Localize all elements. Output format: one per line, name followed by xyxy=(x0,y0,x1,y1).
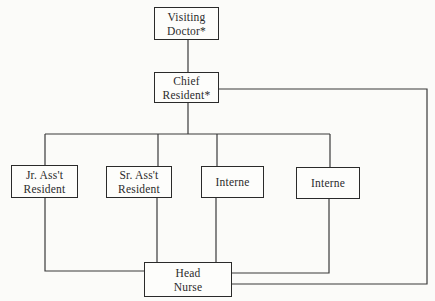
node-label-line1: Interne xyxy=(216,175,250,189)
node-label-line1: Head xyxy=(175,266,200,280)
node-chief-resident: Chief Resident* xyxy=(154,72,219,103)
node-label-line2: Doctor* xyxy=(167,24,206,38)
node-interne-2: Interne xyxy=(296,167,360,199)
node-label-line2: Resident xyxy=(118,182,160,196)
connector-lines xyxy=(0,0,435,301)
node-label-line1: Visiting xyxy=(168,10,206,24)
edge-jr-to-headnurse xyxy=(45,198,144,271)
node-label-line1: Jr. Ass't xyxy=(26,168,63,182)
node-label-line1: Sr. Ass't xyxy=(119,168,158,182)
node-label-line2: Nurse xyxy=(174,280,202,294)
node-label-line2: Resident* xyxy=(163,88,211,102)
node-sr-asst-resident: Sr. Ass't Resident xyxy=(106,166,172,198)
node-head-nurse: Head Nurse xyxy=(144,262,232,297)
edge-interne2-to-headnurse xyxy=(232,199,329,273)
node-label-line2: Resident xyxy=(24,182,66,196)
node-label-line1: Interne xyxy=(311,176,345,190)
node-interne-1: Interne xyxy=(201,166,264,198)
node-jr-asst-resident: Jr. Ass't Resident xyxy=(11,165,78,198)
node-label-line1: Chief xyxy=(173,74,200,88)
node-visiting-doctor: Visiting Doctor* xyxy=(154,7,219,40)
